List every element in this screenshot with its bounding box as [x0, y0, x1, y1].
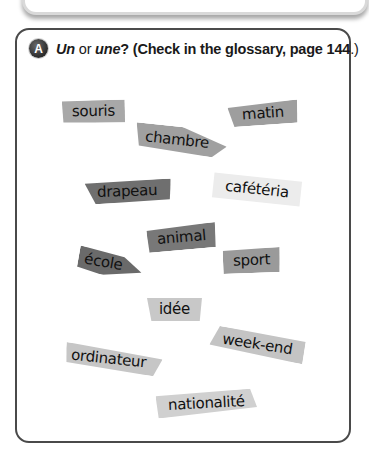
instruction-or: or	[75, 41, 95, 57]
instruction-un: Un	[56, 41, 75, 57]
instruction-page: 144	[327, 41, 351, 57]
instruction-une: une	[95, 41, 120, 57]
exercise-instruction: Un or une? (Check in the glossary, page …	[56, 41, 359, 57]
exercise-letter-badge: A	[29, 39, 48, 58]
word-sport: sport	[223, 247, 281, 274]
instruction-end: .)	[350, 41, 358, 57]
exercise-header: A Un or une? (Check in the glossary, pag…	[29, 39, 359, 58]
instruction-rest: ? (Check in the glossary, page	[120, 41, 326, 57]
word-idee: idée	[147, 298, 202, 321]
word-souris: souris	[62, 99, 125, 123]
previous-panel-edge	[22, 0, 368, 15]
